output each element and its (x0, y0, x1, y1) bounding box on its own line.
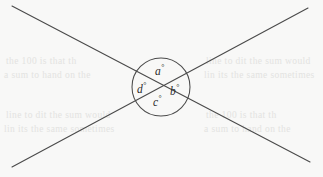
angle-label-c: c° (153, 94, 162, 108)
line-sw-ne (12, 8, 308, 167)
diagram-canvas (0, 0, 323, 177)
angle-label-b-letter: b (170, 85, 176, 97)
line-nw-se (12, 6, 310, 162)
angle-label-d: d° (137, 81, 146, 95)
degree-symbol-c: ° (159, 94, 162, 103)
angle-label-d-letter: d (137, 83, 143, 95)
degree-symbol-b: ° (176, 83, 179, 92)
angle-label-c-letter: c (153, 96, 158, 108)
degree-symbol-a: ° (161, 63, 164, 72)
angle-label-b: b° (170, 83, 179, 97)
angle-label-a: a° (155, 63, 164, 77)
degree-symbol-d: ° (143, 81, 146, 90)
geometry-figure: the 100 is that th a sum to hand on the … (0, 0, 323, 177)
angle-label-a-letter: a (155, 65, 161, 77)
